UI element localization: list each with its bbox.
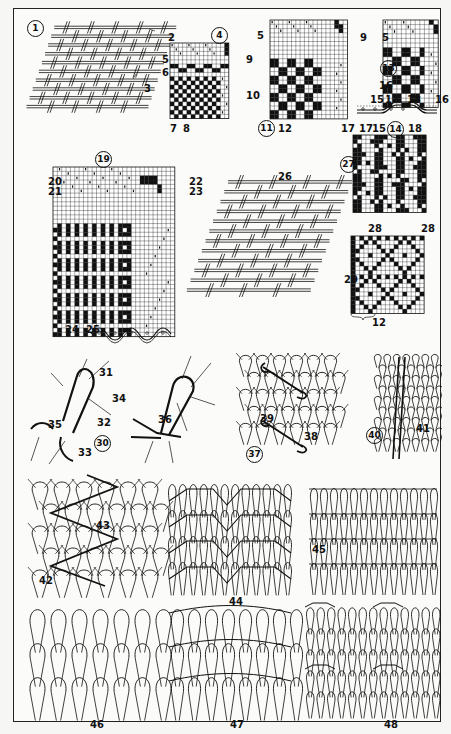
figure-37-knit-structure	[236, 353, 348, 452]
callout-26: 26	[278, 172, 292, 182]
callout-46: 46	[90, 720, 104, 730]
figure-26-twill-fabric	[187, 175, 352, 297]
callout-42: 42	[39, 576, 53, 586]
callout-18: 18	[407, 95, 421, 105]
callout-5: 5	[382, 33, 389, 43]
callout-39: 39	[260, 414, 274, 424]
callout-9: 9	[246, 55, 253, 65]
callout-45: 45	[312, 545, 326, 555]
figure-46-knit-structure	[30, 610, 171, 721]
callout-10: 10	[246, 91, 260, 101]
figure-36-knit-loop	[131, 356, 215, 463]
callout-9: 9	[360, 33, 367, 43]
callout-16: 16	[435, 95, 449, 105]
figure-27-weave-pattern	[353, 135, 426, 212]
callout-41: 41	[416, 424, 430, 434]
callout-47: 47	[230, 720, 244, 730]
callout-18: 18	[408, 124, 422, 134]
callout-32: 32	[97, 418, 111, 428]
callout-12: 12	[372, 318, 386, 328]
callout-25: 25	[86, 325, 100, 335]
figure-1-plain-weave	[27, 21, 177, 113]
figure-4-weave-draft	[170, 43, 229, 119]
figure-number-14: 14	[387, 121, 404, 138]
figure-11-weave-draft	[270, 20, 347, 119]
figure-number-30: 30	[94, 435, 111, 452]
callout-5: 5	[162, 55, 169, 65]
callout-28: 28	[368, 224, 382, 234]
callout-38: 38	[304, 432, 318, 442]
figure-47-knit-structure	[171, 610, 302, 721]
callout-17: 17	[359, 124, 373, 134]
figure-47-course-lines	[169, 606, 291, 682]
callout-15: 15	[370, 95, 384, 105]
figure-44-knit-structure	[168, 485, 291, 596]
callout-23: 23	[189, 187, 203, 197]
figure-number-19: 19	[95, 151, 112, 168]
callout-7: 7	[170, 124, 177, 134]
callout-17: 17	[341, 124, 355, 134]
callout-33: 33	[78, 448, 92, 458]
figure-40-knit-structure	[374, 354, 442, 459]
callout-17: 17	[385, 95, 399, 105]
callout-28: 28	[421, 224, 435, 234]
figure-19-weave-draft	[53, 167, 175, 343]
callout-43: 43	[96, 521, 110, 531]
callout-21: 21	[48, 187, 62, 197]
illustration-plate: 1 2 3 4 5 6 9 10 7 8 5 9 11 12 17 5 13 1…	[13, 8, 441, 722]
figure-number-40: 40	[366, 427, 383, 444]
figure-48-knit-structure	[305, 603, 440, 718]
plate-artwork	[14, 9, 442, 723]
figure-number-1: 1	[27, 20, 44, 37]
callout-5: 5	[257, 31, 264, 41]
callout-29: 29	[344, 275, 358, 285]
figure-number-37: 37	[246, 446, 263, 463]
callout-3: 3	[144, 84, 151, 94]
figure-45-knit-structure	[309, 488, 438, 595]
callout-36: 36	[158, 415, 172, 425]
callout-15: 15	[372, 124, 386, 134]
callout-8: 8	[183, 124, 190, 134]
callout-6: 6	[162, 68, 169, 78]
callout-31: 31	[99, 368, 113, 378]
callout-35: 35	[48, 420, 62, 430]
callout-12: 12	[278, 124, 292, 134]
callout-24: 24	[65, 325, 79, 335]
figure-29-weave-pattern	[351, 236, 424, 320]
figure-number-11: 11	[258, 120, 275, 137]
callout-48: 48	[384, 720, 398, 730]
figure-number-4: 4	[211, 27, 228, 44]
callout-44: 44	[229, 597, 243, 607]
figure-number-13: 13	[380, 60, 397, 77]
callout-34: 34	[112, 394, 126, 404]
figure-number-27: 27	[340, 156, 357, 173]
callout-2: 2	[168, 33, 175, 43]
callout-16: 16	[379, 81, 393, 91]
